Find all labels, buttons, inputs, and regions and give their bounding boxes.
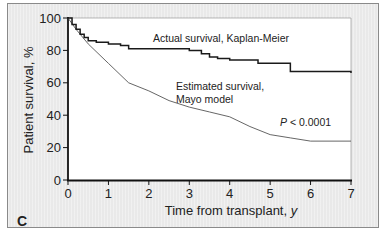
x-tick-label: 0 (64, 186, 71, 201)
y-axis-title: Patient survival, % (21, 46, 36, 153)
x-tick-label: 6 (307, 186, 314, 201)
x-tick-label: 3 (186, 186, 193, 201)
survival-chart: 020406080100 01234567 Actual survival, K… (0, 0, 388, 235)
x-tick-label: 2 (145, 186, 152, 201)
y-tick-label: 60 (47, 75, 61, 90)
y-tick-label: 100 (39, 11, 61, 26)
p-value: < 0.0001 (287, 116, 331, 128)
x-tick-label: 1 (105, 186, 112, 201)
p-value-annotation: P < 0.0001 (280, 116, 331, 128)
x-axis-title-unit: y (290, 203, 299, 218)
x-axis-ticks: 01234567 (64, 180, 354, 201)
mayo-curve-label-line1: Estimated survival, (176, 80, 264, 92)
y-tick-label: 40 (47, 108, 61, 123)
x-axis-title-main: Time from transplant, (165, 203, 291, 218)
p-symbol: P (280, 116, 287, 128)
x-tick-label: 4 (226, 186, 233, 201)
panel-letter: C (17, 213, 27, 229)
y-tick-label: 80 (47, 43, 61, 58)
y-axis-ticks: 020406080100 (39, 11, 68, 188)
x-axis-title: Time from transplant, y (165, 203, 299, 218)
km-curve-label: Actual survival, Kaplan-Meier (153, 32, 289, 44)
mayo-curve-label-line2: Mayo model (176, 93, 233, 105)
y-tick-label: 20 (47, 140, 61, 155)
y-tick-label: 0 (54, 173, 61, 188)
x-tick-label: 5 (267, 186, 274, 201)
x-tick-label: 7 (347, 186, 354, 201)
